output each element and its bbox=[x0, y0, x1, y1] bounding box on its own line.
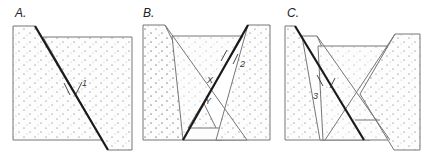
marker-x: X bbox=[206, 75, 214, 85]
panel-a: A. 1 bbox=[13, 6, 132, 150]
marker-y: Y bbox=[205, 96, 212, 106]
slip-marker-2: 2 bbox=[239, 59, 245, 69]
panel-c: C. 3 bbox=[285, 6, 420, 150]
panel-b: B. 2 X Y bbox=[143, 6, 270, 140]
panel-c-label: C. bbox=[287, 6, 299, 20]
fault-diagram: A. 1 B. 2 X Y C. bbox=[0, 0, 433, 158]
slip-marker-3: 3 bbox=[313, 91, 318, 101]
panel-b-label: B. bbox=[143, 6, 154, 20]
panel-a-label: A. bbox=[14, 6, 26, 20]
slip-marker-1: 1 bbox=[82, 78, 87, 88]
